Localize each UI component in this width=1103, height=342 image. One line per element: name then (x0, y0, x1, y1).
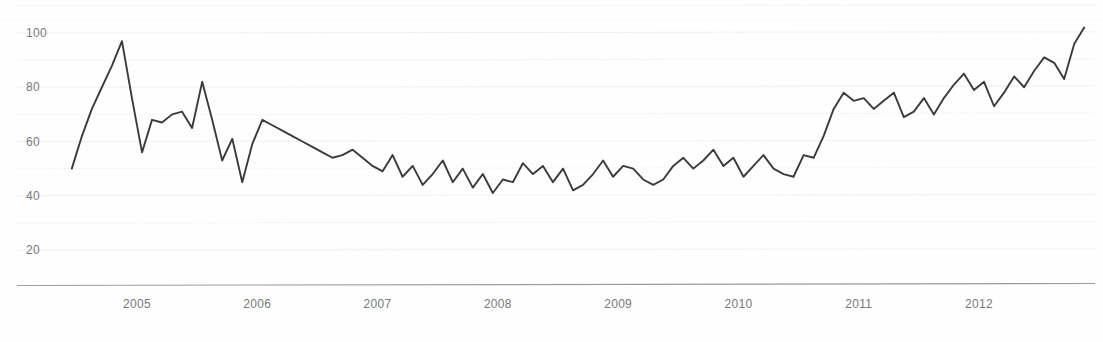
gridline (17, 5, 1095, 6)
x-axis-tick-label: 2012 (965, 297, 993, 311)
y-axis-tick-label: 20 (26, 243, 40, 257)
gridline (17, 249, 1095, 250)
gridline (17, 167, 1095, 168)
y-axis-tick-label: 80 (26, 80, 40, 94)
gridline (17, 195, 1095, 196)
gridline (17, 86, 1095, 87)
x-axis-tick-label: 2005 (123, 297, 151, 311)
x-axis-tick-label: 2008 (484, 297, 512, 311)
y-axis-tick-label: 40 (26, 189, 40, 203)
x-axis-tick-label: 2006 (243, 297, 271, 311)
chart-plot-area: 20406080100 2005200620072008200920102011… (0, 0, 1103, 342)
x-axis-tick-label: 2010 (724, 297, 752, 311)
x-axis-tick-label: 2009 (604, 297, 632, 311)
gridline (17, 140, 1095, 141)
y-axis-tick-label: 60 (26, 135, 40, 149)
x-axis-tick-labels: 20052006200720082009201020112012 (123, 297, 993, 311)
x-axis-tick-label: 2011 (845, 297, 872, 311)
y-axis-tick-label: 100 (26, 26, 47, 40)
gridline (17, 222, 1095, 223)
gridlines-group (17, 5, 1095, 250)
gridline (17, 59, 1095, 60)
line-chart-figure: 20406080100 2005200620072008200920102011… (0, 0, 1103, 342)
x-axis-tick-label: 2007 (364, 297, 392, 311)
gridline (17, 32, 1095, 33)
x-axis-baseline (17, 284, 1095, 286)
